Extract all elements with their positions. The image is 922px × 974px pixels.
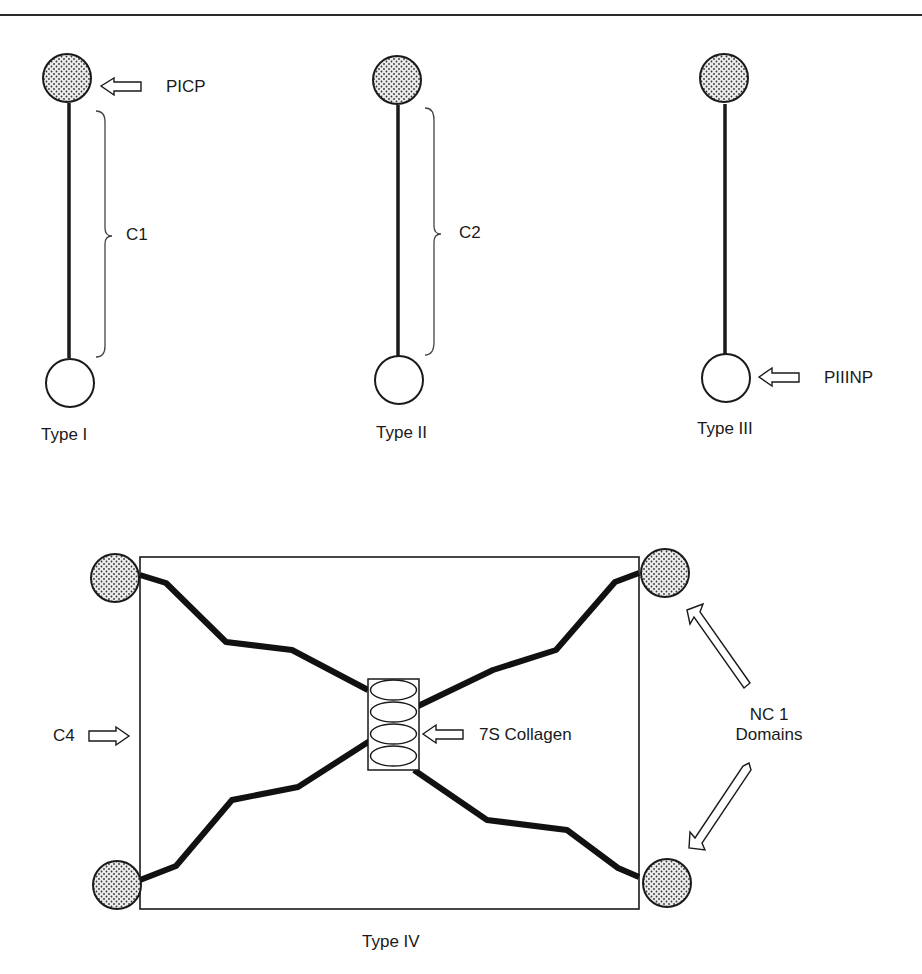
- type4-chain-bottom-left: [140, 737, 376, 880]
- type3-bottom-globule: [702, 354, 750, 402]
- type1-top-globule: [43, 54, 91, 102]
- type2-bottom-globule: [375, 356, 423, 404]
- type4-c4-arrow-icon: [89, 727, 129, 745]
- type4-network: [89, 549, 751, 909]
- type2-top-globule: [373, 56, 421, 104]
- type4-nc1-arrow-down-icon: [689, 763, 751, 850]
- type1-bottom-globule: [46, 359, 94, 407]
- type4-chain-top-left: [140, 575, 368, 690]
- type4-7s-arrow-icon: [423, 725, 463, 743]
- type4-nc1-globule-top-left: [91, 554, 139, 602]
- label-c2: C2: [459, 223, 481, 243]
- diagram-canvas: [0, 0, 922, 974]
- caption-type3: Type III: [697, 419, 753, 439]
- label-domains: Domains: [724, 725, 814, 745]
- type4-nc1-arrow-up-icon: [687, 604, 750, 688]
- type3-arrow-icon: [759, 368, 799, 386]
- type1-brace-icon: [96, 111, 112, 357]
- type4-chain-bottom-right: [414, 770, 639, 877]
- label-picp: PICP: [166, 77, 206, 97]
- type4-nc1-globule-top-right: [641, 549, 689, 597]
- type3-molecule: [700, 54, 799, 402]
- type4-nc1-globule-bottom-right: [643, 859, 691, 907]
- caption-type4: Type IV: [362, 932, 420, 952]
- caption-type1: Type I: [41, 425, 87, 445]
- type1-arrow-icon: [101, 78, 141, 95]
- type4-chain-top-right: [414, 573, 639, 708]
- label-7s-collagen: 7S Collagen: [479, 725, 572, 745]
- type3-top-globule: [700, 54, 748, 102]
- type4-7s-ellipse-3: [371, 724, 417, 744]
- type4-nc1-globule-bottom-left: [93, 861, 141, 909]
- type2-brace-icon: [425, 108, 441, 355]
- collagen-figure: PICP C1 Type I C2 Type II PIIINP Type II…: [0, 0, 922, 974]
- type4-7s-ellipse-2: [371, 702, 417, 722]
- type4-7s-ellipse-1: [371, 680, 417, 700]
- label-piiinp: PIIINP: [824, 368, 873, 388]
- label-nc1: NC 1: [724, 705, 814, 725]
- type2-molecule: [373, 56, 441, 404]
- caption-type2: Type II: [376, 423, 427, 443]
- label-c4: C4: [53, 726, 75, 746]
- label-c1: C1: [126, 225, 148, 245]
- type4-7s-ellipse-4: [371, 746, 417, 766]
